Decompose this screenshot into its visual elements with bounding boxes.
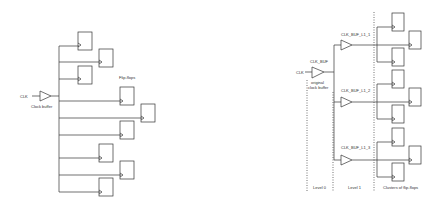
ff-group-label: Flip-flops — [119, 75, 135, 80]
left-buffer-label: Clock buffer — [31, 104, 53, 109]
buffer-icon — [341, 97, 352, 107]
left-flip-flops — [59, 32, 155, 196]
left-diagram: CLK Clock buffer Flip-flops — [20, 32, 155, 196]
right-diagram: CLK CLK_BUF original clock buffer CLK_BU… — [296, 12, 421, 192]
root-buffer-label: CLK_BUF — [310, 59, 329, 64]
clock-diagrams: CLK Clock buffer Flip-flops CLK CLK_BUF … — [0, 0, 447, 203]
level1-buffer-3: CLK_BUF_L1_3 — [334, 128, 421, 181]
buffer-label: CLK_BUF_L1_1 — [341, 32, 371, 37]
buffer-label: CLK_BUF_L1_3 — [341, 145, 371, 150]
root-buffer-caption-2: clock buffer — [308, 85, 329, 90]
level0-label: Level 0 — [313, 185, 327, 190]
right-clk-label: CLK — [296, 70, 304, 75]
buffer-icon — [341, 40, 352, 50]
level1-buffer-1: CLK_BUF_L1_1 — [334, 13, 421, 66]
buffer-icon — [341, 155, 352, 165]
level1-label: Level 1 — [348, 185, 362, 190]
clock-buffer-icon — [40, 91, 51, 101]
root-buffer-icon — [312, 67, 324, 78]
left-clk-label: CLK — [20, 94, 28, 99]
buffer-label: CLK_BUF_L1_2 — [341, 88, 371, 93]
clusters-label: Clusters of flip-flops — [383, 185, 418, 190]
level1-buffer-2: CLK_BUF_L1_2 — [334, 70, 421, 123]
